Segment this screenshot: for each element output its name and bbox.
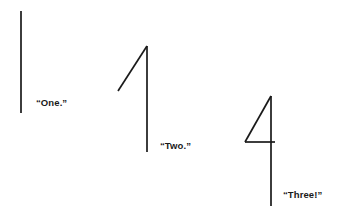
figure-one-caption: “One.”	[36, 98, 67, 108]
figure-two-strokes	[118, 46, 147, 152]
figure-three-diagonal-flag-line	[245, 96, 271, 142]
figure-two-diagonal-flag-line	[118, 46, 147, 91]
figure-three-caption: “Three!”	[283, 190, 322, 200]
figure-three-strokes	[245, 96, 275, 206]
figure-two-caption: “Two.”	[160, 141, 191, 151]
drawing-canvas: “One.” “Two.” “Three!”	[0, 0, 348, 213]
